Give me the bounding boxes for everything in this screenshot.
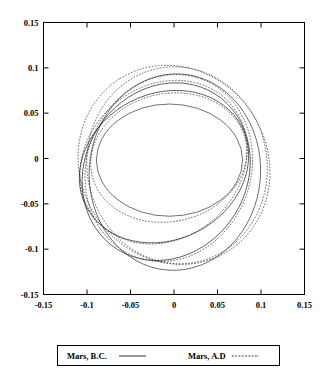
x-tick-label: -0.1 (80, 300, 93, 310)
orbit-ellipse (47, 46, 281, 277)
y-tick-label: -0.1 (25, 244, 38, 254)
series-mars-bc (49, 51, 284, 292)
legend-label-mars-ad: Mars, A.D (188, 351, 226, 361)
y-tick-label: 0 (34, 154, 38, 164)
orbit-ellipse (83, 68, 268, 276)
x-tick-label: -0.05 (122, 300, 140, 310)
plot-frame (44, 23, 305, 295)
x-tick-label: 0 (172, 300, 176, 310)
y-axis-ticks: 0.150.10.050-0.05-0.1-0.15 (21, 18, 305, 300)
orbit-ellipse (49, 51, 284, 292)
x-tick-label: 0.05 (210, 300, 225, 310)
chart-figure: 0.150.10.050-0.05-0.1-0.15 -0.15-0.1-0.0… (0, 0, 336, 380)
y-tick-label: -0.15 (21, 290, 39, 300)
chart-legend: Mars, B.C. Mars, A.D (58, 346, 280, 366)
legend-label-mars-bc: Mars, B.C. (67, 351, 107, 361)
x-axis-ticks: -0.15-0.1-0.0500.050.10.15 (35, 23, 312, 310)
y-tick-label: 0.15 (24, 18, 39, 28)
orbit-ellipse (96, 104, 242, 216)
y-tick-label: -0.05 (21, 199, 39, 209)
x-tick-label: 0.15 (297, 300, 312, 310)
orbit-ellipse (59, 51, 278, 285)
orbit-ellipse (71, 52, 283, 278)
orbit-ellipse (78, 78, 260, 238)
orbit-plot: 0.150.10.050-0.05-0.1-0.15 -0.15-0.1-0.0… (0, 0, 336, 380)
y-tick-label: 0.1 (28, 63, 39, 73)
x-tick-label: -0.15 (35, 300, 53, 310)
y-tick-label: 0.05 (24, 108, 39, 118)
x-tick-label: 0.1 (256, 300, 267, 310)
